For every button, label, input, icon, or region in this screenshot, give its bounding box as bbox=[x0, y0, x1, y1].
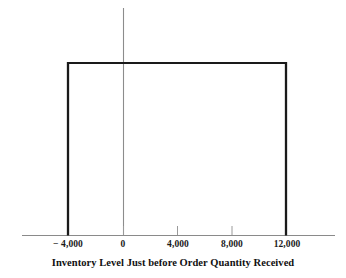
uniform-density-rectangle bbox=[67, 62, 287, 236]
tick-label-12000: 12,000 bbox=[274, 238, 301, 250]
tick-label-4000: 4,000 bbox=[167, 238, 189, 250]
chart-canvas bbox=[0, 0, 346, 278]
uniform-distribution-chart: − 4,000 0 4,000 8,000 12,000 Inventory L… bbox=[0, 0, 346, 278]
axis-tick-marks bbox=[124, 226, 233, 235]
tick-label-8000: 8,000 bbox=[221, 238, 243, 250]
tick-label-0: 0 bbox=[121, 238, 126, 250]
x-axis-caption: Inventory Level Just before Order Quanti… bbox=[0, 257, 346, 268]
tick-label-neg-4000: − 4,000 bbox=[53, 238, 83, 250]
